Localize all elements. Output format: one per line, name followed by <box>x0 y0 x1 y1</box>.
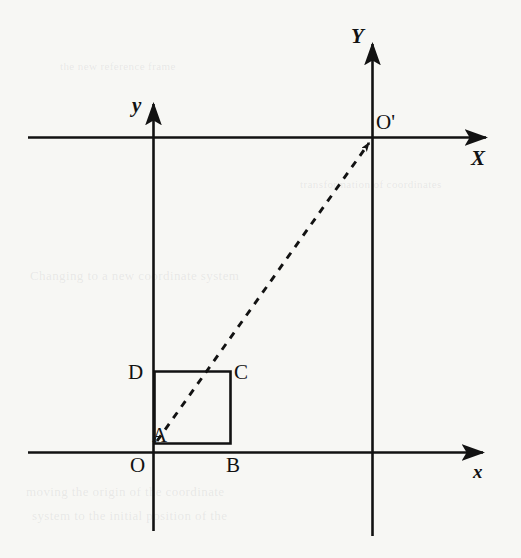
label-X-axis-big: X <box>471 148 485 169</box>
diagram-canvas <box>0 0 521 558</box>
label-vertex-b: B <box>226 455 240 476</box>
label-vertex-d: D <box>128 362 143 383</box>
geometry-figure: Changing to a new coordinate system movi… <box>0 0 521 558</box>
label-origin-big: O' <box>376 112 395 133</box>
label-x-axis-small: x <box>473 462 483 481</box>
dashed-vector-A-to-Oprime <box>157 143 369 441</box>
label-origin-small: O <box>130 455 145 476</box>
label-y-axis-small: y <box>132 95 141 116</box>
label-Y-axis-big: Y <box>351 26 364 47</box>
label-vertex-c: C <box>234 362 248 383</box>
label-vertex-a: A <box>152 425 167 446</box>
